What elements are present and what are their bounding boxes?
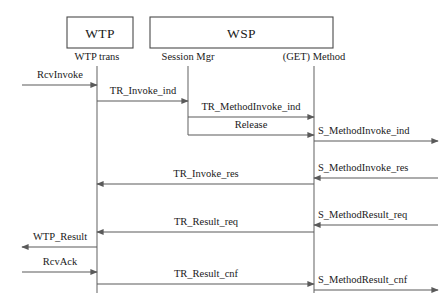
message-m10: WTP_Result — [22, 231, 97, 247]
message-m5: S_MethodInvoke_ind — [314, 125, 438, 141]
message-label-m11: RcvAck — [43, 256, 78, 267]
message-label-m9: TR_Result_req — [174, 216, 239, 227]
message-m1: RcvInvoke — [22, 69, 97, 85]
sequence-diagram-svg: WTPWSP WTP transSession Mgr(GET) Method … — [0, 0, 444, 304]
message-label-m7: TR_Invoke_res — [173, 168, 238, 179]
message-m2: TR_Invoke_ind — [97, 85, 188, 101]
message-m9: TR_Result_req — [97, 216, 314, 232]
message-m7: TR_Invoke_res — [97, 168, 314, 184]
message-m6: S_MethodInvoke_res — [314, 162, 438, 178]
participant-box-label-wsp: WSP — [227, 26, 256, 41]
message-m3: TR_MethodInvoke_ind — [188, 101, 314, 117]
participant-boxes: WTPWSP — [67, 17, 333, 48]
message-m11: RcvAck — [22, 256, 97, 272]
messages: RcvInvokeTR_Invoke_indTR_MethodInvoke_in… — [22, 69, 438, 290]
message-label-m10: WTP_Result — [33, 231, 87, 242]
message-label-m3: TR_MethodInvoke_ind — [201, 101, 301, 112]
participant-box-wsp: WSP — [150, 17, 333, 48]
message-label-m12: TR_Result_cnf — [174, 268, 239, 279]
participant-box-label-wtp: WTP — [85, 26, 115, 41]
message-m12: TR_Result_cnf — [97, 268, 314, 284]
message-m8: S_MethodResult_req — [314, 209, 438, 225]
message-label-m5: S_MethodInvoke_ind — [318, 125, 410, 136]
message-label-m13: S_MethodResult_cnf — [318, 274, 408, 285]
message-m4: Release — [188, 119, 314, 135]
message-label-m8: S_MethodResult_req — [318, 209, 408, 220]
message-m13: S_MethodResult_cnf — [314, 274, 438, 290]
sequence-diagram-canvas: WTPWSP WTP transSession Mgr(GET) Method … — [0, 0, 444, 304]
message-label-m6: S_MethodInvoke_res — [318, 162, 408, 173]
message-label-m1: RcvInvoke — [37, 69, 83, 80]
message-label-m4: Release — [235, 119, 268, 130]
participant-box-wtp: WTP — [67, 17, 133, 48]
lifeline-label-wtp-trans: WTP trans — [75, 51, 120, 62]
message-label-m2: TR_Invoke_ind — [110, 85, 177, 96]
lifeline-label-get-method: (GET) Method — [283, 51, 346, 63]
lifeline-label-session-mgr: Session Mgr — [162, 51, 215, 62]
